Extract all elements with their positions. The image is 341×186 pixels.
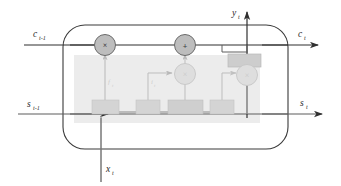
input-activation-block: [136, 100, 160, 114]
input-label-sub: t: [112, 169, 114, 176]
forget-multiply-glyph: ×: [103, 41, 108, 50]
input-multiply-node: ×: [175, 64, 196, 85]
state-in-label: s: [27, 99, 31, 109]
output-multiply-glyph: ×: [245, 71, 250, 80]
forget-multiply-node: ×: [95, 35, 116, 56]
diagram-canvas: × + × × f t i t: [0, 0, 341, 186]
input-multiply-glyph: ×: [183, 70, 188, 79]
output-activation-block: [210, 100, 234, 114]
output-multiply-node: ×: [237, 65, 258, 86]
state-out-label-sub: t: [306, 103, 308, 110]
candidate-activation-block: [168, 100, 203, 114]
output-label-sub: t: [238, 13, 240, 20]
cell-add-node: +: [175, 35, 196, 56]
cell-in-label-sub: t-1: [39, 34, 46, 41]
input-gate-label: i: [151, 78, 153, 86]
cell-out-label-sub: t: [304, 34, 306, 41]
cell-add-glyph: +: [183, 42, 188, 51]
cell-in-label: c: [33, 29, 38, 39]
output-label: y: [231, 8, 237, 18]
state-in-label-sub: t-1: [33, 104, 40, 111]
lstm-cell-diagram: × + × × f t i t: [0, 0, 341, 186]
forget-activation-block: [92, 100, 119, 114]
state-out-label: s: [300, 98, 304, 108]
input-label: x: [105, 164, 111, 174]
cell-out-label: c: [298, 29, 303, 39]
